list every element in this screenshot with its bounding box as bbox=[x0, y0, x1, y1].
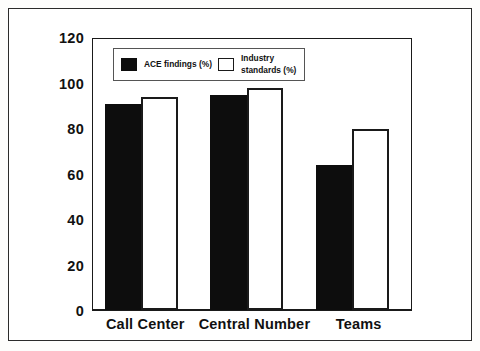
y-axis-tick-label: 60 bbox=[6, 167, 92, 182]
legend-swatch-filled-icon bbox=[121, 58, 137, 71]
chart-legend: ACE findings (%) Industry standards (%) bbox=[113, 48, 305, 81]
y-axis-tick-label: 100 bbox=[6, 76, 92, 91]
x-axis: Call CenterCentral NumberTeams bbox=[92, 316, 412, 340]
bar-ace-findings bbox=[210, 95, 246, 310]
y-axis-tick-label: 120 bbox=[6, 31, 92, 46]
legend-label: ACE findings (%) bbox=[144, 59, 212, 70]
bar-industry-standards bbox=[247, 88, 283, 309]
legend-swatch-hollow-icon bbox=[218, 58, 234, 71]
x-axis-tick-label: Call Center bbox=[92, 316, 199, 332]
legend-label: Industry standards (%) bbox=[241, 53, 296, 76]
x-axis-tick-label: Teams bbox=[305, 316, 412, 332]
bar-ace-findings bbox=[316, 165, 352, 310]
bar-ace-findings bbox=[105, 104, 141, 310]
x-axis-tick-label: Central Number bbox=[199, 316, 306, 332]
legend-entry-ace-findings: ACE findings (%) bbox=[121, 49, 212, 80]
y-axis-tick-label: 40 bbox=[6, 213, 92, 228]
y-axis-tick-label: 20 bbox=[6, 258, 92, 273]
bar-group bbox=[305, 40, 411, 310]
bar-industry-standards bbox=[141, 97, 177, 309]
legend-entry-industry-standards: Industry standards (%) bbox=[218, 49, 296, 80]
y-axis-tick-label: 0 bbox=[6, 304, 92, 319]
chart-figure: 020406080100120 Call CenterCentral Numbe… bbox=[0, 0, 480, 351]
y-axis-tick-label: 80 bbox=[6, 122, 92, 137]
bar-industry-standards bbox=[352, 129, 388, 310]
y-axis: 020406080100120 bbox=[0, 0, 92, 351]
